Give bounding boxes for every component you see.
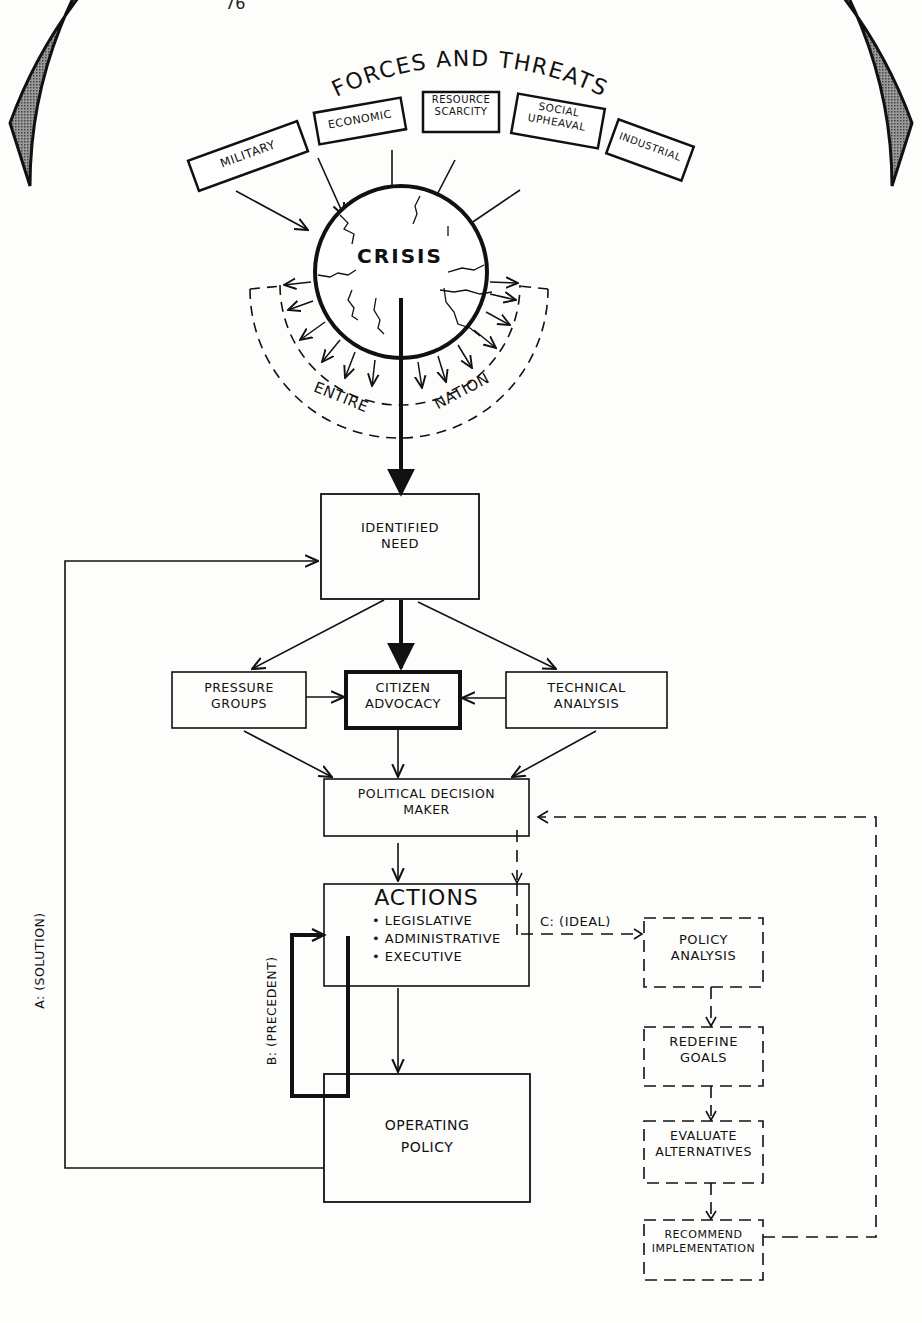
policy-analysis-line2: ANALYSIS: [644, 948, 763, 964]
citizen-advocacy-line1: CITIZEN: [346, 680, 460, 696]
political-decision-maker-label: POLITICAL DECISION MAKER: [324, 786, 529, 817]
ideal-process-boxes: [644, 918, 786, 1280]
operating-policy-label: OPERATING POLICY: [324, 1114, 530, 1159]
legislative-text: LEGISLATIVE: [385, 913, 472, 928]
citizen-advocacy-label: CITIZEN ADVOCACY: [346, 680, 460, 713]
identified-need-line2: NEED: [321, 536, 479, 552]
technical-analysis-line2: ANALYSIS: [506, 696, 667, 712]
identified-need-label: IDENTIFIED NEED: [321, 520, 479, 553]
crisis-label: CRISIS: [340, 244, 460, 269]
crisis-circle: [315, 186, 492, 358]
action-bullet-executive: • EXECUTIVE: [372, 948, 501, 966]
citizen-advocacy-line2: ADVOCACY: [346, 696, 460, 712]
path-a-label: A: (SOLUTION): [32, 919, 48, 1009]
force-resource-scarcity: RESOURCE SCARCITY: [423, 94, 499, 117]
recommend-implementation-line2: IMPLEMENTATION: [644, 1242, 763, 1256]
administrative-text: ADMINISTRATIVE: [385, 931, 501, 946]
actions-bullets: • LEGISLATIVE • ADMINISTRATIVE • EXECUTI…: [372, 912, 501, 967]
action-bullet-legislative: • LEGISLATIVE: [372, 912, 501, 930]
precedent-feedback-loop: [292, 935, 348, 1096]
ideal-arrowhead: [634, 929, 642, 939]
redefine-goals-line1: REDEFINE: [644, 1034, 763, 1050]
pdm-line2: MAKER: [324, 802, 529, 818]
policy-analysis-label: POLICY ANALYSIS: [644, 932, 763, 965]
evaluate-alternatives-line2: ALTERNATIVES: [644, 1144, 763, 1160]
operating-policy-line2: POLICY: [324, 1136, 530, 1158]
redefine-goals-line2: GOALS: [644, 1050, 763, 1066]
recommend-implementation-line1: RECOMMEND: [644, 1228, 763, 1242]
policy-analysis-line1: POLICY: [644, 932, 763, 948]
pressure-groups-line2: GROUPS: [172, 696, 306, 712]
pressure-groups-line1: PRESSURE: [172, 680, 306, 696]
pressure-groups-label: PRESSURE GROUPS: [172, 680, 306, 711]
path-c-label: C: (IDEAL): [540, 914, 611, 930]
technical-analysis-label: TECHNICAL ANALYSIS: [506, 680, 667, 713]
pdm-line1: POLITICAL DECISION: [324, 786, 529, 802]
recommend-implementation-label: RECOMMEND IMPLEMENTATION: [644, 1228, 763, 1256]
need-branch-arrows: [252, 600, 556, 669]
operating-policy-line1: OPERATING: [324, 1114, 530, 1136]
action-bullet-administrative: • ADMINISTRATIVE: [372, 930, 501, 948]
redefine-goals-label: REDEFINE GOALS: [644, 1034, 763, 1067]
executive-text: EXECUTIVE: [385, 949, 462, 964]
actions-title: ACTIONS: [324, 884, 529, 912]
ideal-feedback-loop: [517, 817, 876, 1237]
to-decision-maker-arrows: [244, 730, 596, 777]
path-b-label: B: (PRECEDENT): [264, 956, 280, 1066]
evaluate-alternatives-line1: EVALUATE: [644, 1128, 763, 1144]
evaluate-alternatives-label: EVALUATE ALTERNATIVES: [644, 1128, 763, 1159]
technical-analysis-line1: TECHNICAL: [506, 680, 667, 696]
identified-need-line1: IDENTIFIED: [321, 520, 479, 536]
